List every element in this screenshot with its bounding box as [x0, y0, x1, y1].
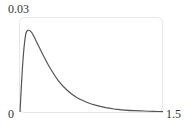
plot-area: [0, 0, 188, 125]
density-curve: [20, 30, 163, 112]
density-chart: 0.03 0 1.5: [0, 0, 188, 125]
y-axis-min-label: 0: [8, 108, 14, 120]
x-axis-max-label: 1.5: [166, 108, 181, 120]
y-axis-max-label: 0.03: [8, 3, 29, 15]
plot-frame: [20, 18, 163, 113]
